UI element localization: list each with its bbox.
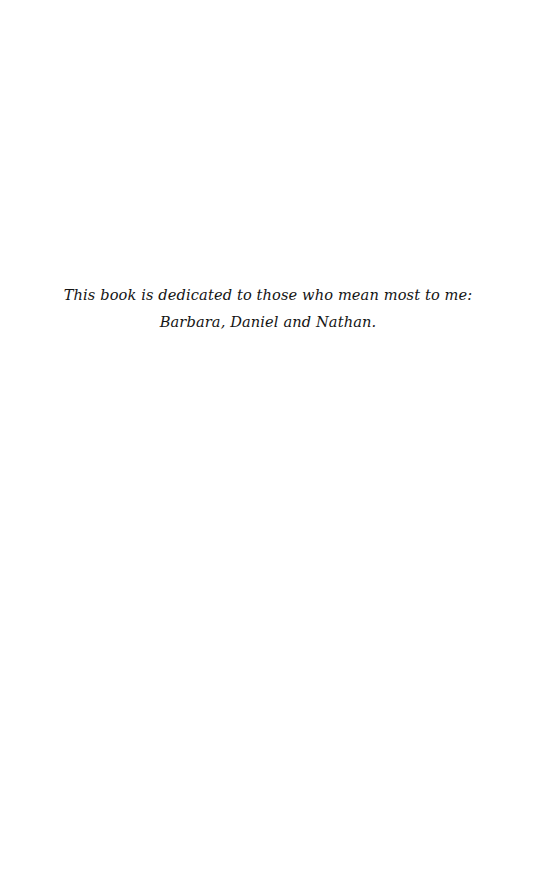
dedication-block: This book is dedicated to those who mean…: [0, 281, 536, 335]
dedication-line-2: Barbara, Daniel and Nathan.: [0, 308, 536, 335]
book-page: This book is dedicated to those who mean…: [0, 0, 536, 878]
dedication-line-1: This book is dedicated to those who mean…: [0, 281, 536, 308]
